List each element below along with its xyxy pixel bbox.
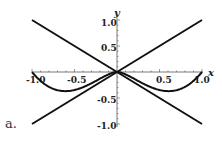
y-tick: -1.0: [97, 121, 116, 131]
x-tick: 0.5: [156, 75, 172, 85]
panel-label: a.: [5, 116, 17, 131]
y-tick: 0.5: [101, 43, 117, 53]
chart: -1.0 -0.5 0.5 1.0 1.0 0.5 -0.5 -1.0 y x …: [0, 0, 222, 141]
x-axis-label: x: [207, 67, 215, 78]
y-axis-label: y: [113, 7, 121, 18]
y-tick: 1.0: [101, 18, 117, 28]
x-tick: -0.5: [67, 75, 86, 85]
y-tick: -0.5: [97, 95, 116, 105]
